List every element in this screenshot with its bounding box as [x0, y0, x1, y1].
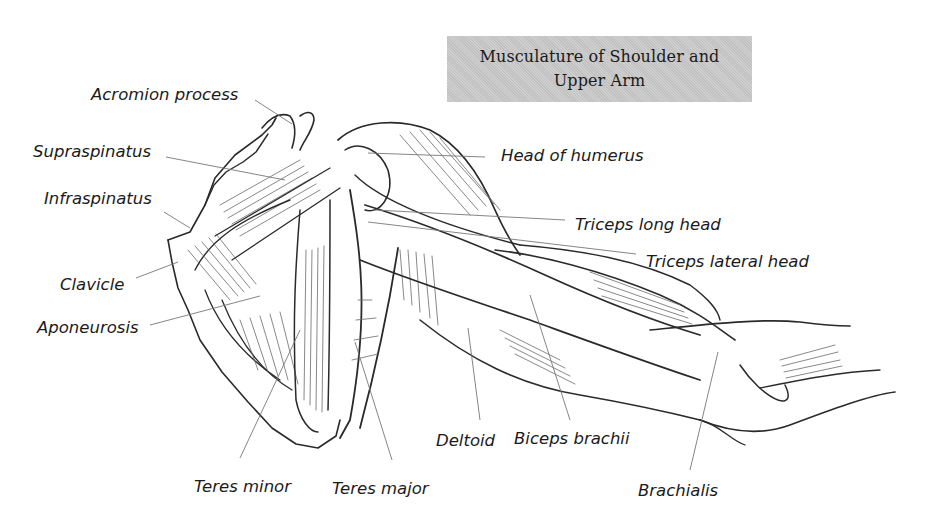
label-triceps-lateral-head: Triceps lateral head [646, 252, 809, 272]
label-teres-minor: Teres minor [194, 477, 291, 497]
label-aponeurosis: Aponeurosis [37, 318, 139, 338]
label-clavicle: Clavicle [60, 275, 124, 295]
title-line-2: Upper Arm [554, 69, 645, 93]
label-brachialis: Brachialis [638, 481, 718, 501]
label-teres-major: Teres major [332, 479, 429, 499]
upper-arm-drawing [360, 205, 735, 420]
label-supraspinatus: Supraspinatus [33, 142, 151, 162]
title-line-1: Musculature of Shoulder and [480, 45, 720, 69]
label-infraspinatus: Infraspinatus [44, 189, 152, 209]
label-acromion-process: Acromion process [91, 85, 238, 105]
diagram-title: Musculature of Shoulder and Upper Arm [447, 36, 752, 102]
label-biceps-brachii: Biceps brachii [514, 429, 630, 449]
label-triceps-long-head: Triceps long head [575, 215, 721, 235]
scapula-drawing [168, 113, 340, 448]
anatomy-diagram: Musculature of Shoulder and Upper Arm Ac… [0, 0, 931, 525]
forearm-drawing [650, 321, 895, 445]
label-head-of-humerus: Head of humerus [501, 146, 644, 166]
teres-drawing [294, 190, 398, 438]
deltoid-drawing [338, 123, 520, 325]
label-deltoid: Deltoid [436, 431, 495, 451]
